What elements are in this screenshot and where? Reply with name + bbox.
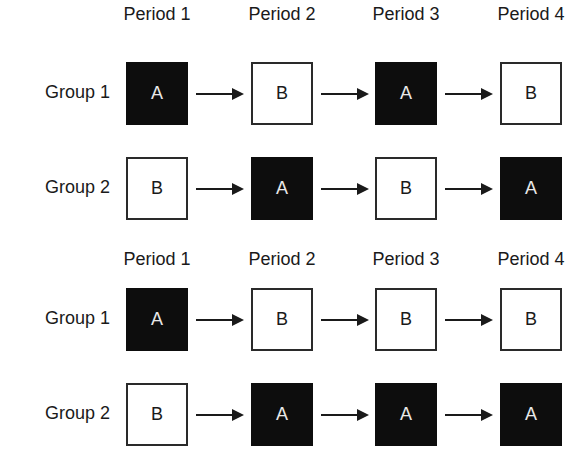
period-label: Period 1 (107, 4, 207, 25)
treatment-a-box: A (251, 157, 313, 220)
arrow-right-icon (321, 88, 369, 100)
treatment-label: A (276, 178, 288, 199)
period-label: Period 1 (107, 249, 207, 270)
treatment-a-box: A (375, 383, 437, 446)
treatment-label: A (400, 83, 412, 104)
period-label: Period 2 (232, 249, 332, 270)
arrow-right-icon (321, 183, 369, 195)
arrow-right-icon (445, 183, 493, 195)
period-label: Period 3 (356, 249, 456, 270)
treatment-label: B (151, 404, 163, 425)
treatment-label: B (525, 83, 537, 104)
treatment-label: A (525, 404, 537, 425)
group-label: Group 2 (10, 403, 110, 424)
arrow-right-icon (445, 88, 493, 100)
treatment-a-box: A (126, 288, 188, 351)
treatment-b-box: B (126, 383, 188, 446)
treatment-label: A (525, 178, 537, 199)
group-label: Group 2 (10, 177, 110, 198)
treatment-b-box: B (375, 157, 437, 220)
period-label: Period 4 (481, 4, 581, 25)
treatment-label: B (400, 309, 412, 330)
arrow-right-icon (196, 409, 244, 421)
treatment-a-box: A (500, 383, 562, 446)
treatment-b-box: B (375, 288, 437, 351)
arrow-right-icon (196, 183, 244, 195)
treatment-a-box: A (251, 383, 313, 446)
arrow-right-icon (196, 314, 244, 326)
treatment-label: A (276, 404, 288, 425)
period-label: Period 2 (232, 4, 332, 25)
treatment-b-box: B (251, 62, 313, 125)
treatment-label: A (400, 404, 412, 425)
arrow-right-icon (321, 314, 369, 326)
treatment-b-box: B (251, 288, 313, 351)
treatment-label: A (151, 83, 163, 104)
period-label: Period 3 (356, 4, 456, 25)
arrow-right-icon (445, 314, 493, 326)
arrow-right-icon (321, 409, 369, 421)
treatment-label: B (276, 309, 288, 330)
treatment-label: A (151, 309, 163, 330)
arrow-right-icon (196, 88, 244, 100)
treatment-a-box: A (375, 62, 437, 125)
treatment-a-box: A (126, 62, 188, 125)
treatment-b-box: B (126, 157, 188, 220)
period-label: Period 4 (481, 249, 581, 270)
treatment-b-box: B (500, 62, 562, 125)
treatment-a-box: A (500, 157, 562, 220)
group-label: Group 1 (10, 82, 110, 103)
treatment-b-box: B (500, 288, 562, 351)
group-label: Group 1 (10, 308, 110, 329)
arrow-right-icon (445, 409, 493, 421)
treatment-label: B (151, 178, 163, 199)
treatment-label: B (276, 83, 288, 104)
treatment-label: B (525, 309, 537, 330)
treatment-label: B (400, 178, 412, 199)
